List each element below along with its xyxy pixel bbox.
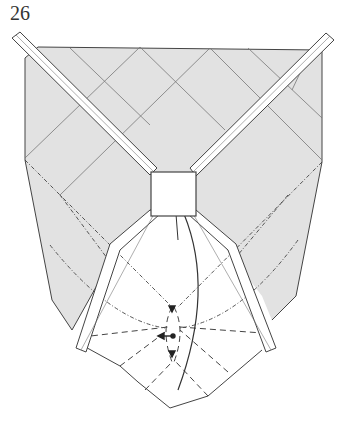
origami-diagram: [0, 0, 356, 425]
center-square: [151, 172, 196, 216]
